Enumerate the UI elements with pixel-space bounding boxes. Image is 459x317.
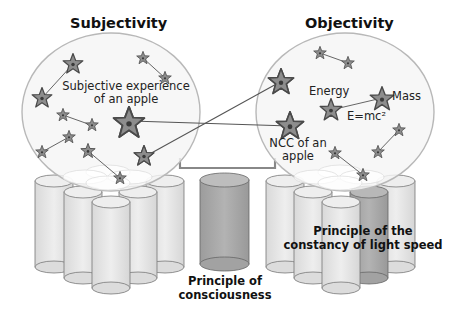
equation-label: E=mc² bbox=[347, 110, 386, 123]
subjective-experience-label: Subjective experience of an apple bbox=[58, 80, 194, 106]
diagram-canvas: Subjectivity Objectivity Subjective expe… bbox=[0, 0, 459, 317]
energy-label: Energy bbox=[309, 85, 349, 98]
objectivity-title: Objectivity bbox=[305, 15, 394, 31]
ncc-label: NCC of an apple bbox=[262, 137, 334, 163]
label-line: of an apple bbox=[58, 93, 194, 106]
subjectivity-title: Subjectivity bbox=[70, 15, 167, 31]
label-line: constancy of light speed bbox=[283, 238, 443, 252]
label-line: Principle of bbox=[174, 274, 276, 288]
principle-of-consciousness-label: Principle of consciousness bbox=[174, 274, 276, 302]
consciousness-cylinder bbox=[200, 173, 249, 271]
left-cylinder-cluster bbox=[35, 175, 184, 294]
mass-label: Mass bbox=[392, 90, 421, 103]
diagram-svg bbox=[0, 0, 459, 317]
label-line: apple bbox=[262, 150, 334, 163]
subjectivity-sphere bbox=[22, 33, 200, 191]
label-line: consciousness bbox=[174, 288, 276, 302]
cylinder bbox=[92, 196, 130, 294]
objectivity-sphere bbox=[256, 33, 434, 191]
bridge-frame bbox=[180, 158, 275, 168]
label-line: Principle of the bbox=[283, 224, 443, 238]
principle-of-light-speed-label: Principle of the constancy of light spee… bbox=[283, 224, 443, 252]
